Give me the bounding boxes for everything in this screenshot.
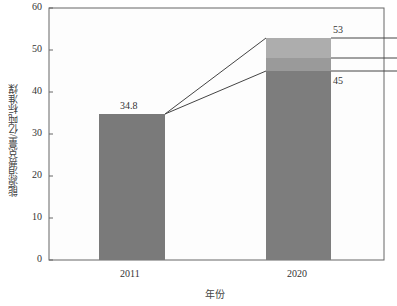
chart-svg — [0, 0, 397, 306]
y-tick-label: 30 — [22, 127, 42, 138]
y-tick-label: 0 — [22, 253, 42, 264]
data-label-2011: 34.8 — [120, 100, 138, 111]
chart-container: 0 10 20 30 40 50 60 能源消费总量/亿吨标准煤 2011 20… — [0, 0, 397, 306]
data-label-2020-low: 45 — [333, 75, 343, 86]
y-tick-label: 60 — [22, 1, 42, 12]
y-tick-label: 40 — [22, 85, 42, 96]
x-axis-title: 年份 — [205, 286, 225, 301]
bar-2011 — [99, 114, 165, 260]
y-tick-label: 50 — [22, 43, 42, 54]
x-tick-label-2011: 2011 — [120, 268, 140, 279]
bar-2020-middle-band — [266, 58, 331, 71]
data-label-2020-high: 53 — [333, 24, 343, 35]
y-tick-label: 20 — [22, 169, 42, 180]
y-tick-label: 10 — [22, 211, 42, 222]
bar-2020-base — [266, 71, 331, 260]
y-axis-title: 能源消费总量/亿吨标准煤 — [2, 60, 24, 220]
bar-2020-top-band — [266, 38, 331, 58]
y-axis-title-text: 能源消费总量/亿吨标准煤 — [6, 84, 21, 197]
x-tick-label-2020: 2020 — [287, 268, 307, 279]
